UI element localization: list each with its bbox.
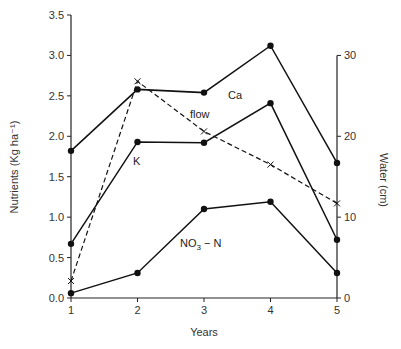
y2-axis-title: Water (cm) bbox=[378, 153, 390, 207]
series-label-k: K bbox=[133, 155, 141, 167]
data-point bbox=[267, 100, 273, 106]
x-tick-label: 1 bbox=[68, 304, 74, 316]
data-point-cross bbox=[135, 78, 141, 84]
x-tick-label: 4 bbox=[267, 304, 273, 316]
y-tick-label: 0.0 bbox=[49, 292, 64, 304]
y-tick-label: 2.0 bbox=[49, 130, 64, 142]
y2-tick-label: 30 bbox=[344, 49, 356, 61]
data-point-cross bbox=[268, 162, 274, 168]
x-tick-label: 5 bbox=[334, 304, 340, 316]
data-point bbox=[201, 89, 207, 95]
x-tick-label: 2 bbox=[134, 304, 140, 316]
series-label-ca: Ca bbox=[228, 89, 243, 101]
y2-tick-label: 0 bbox=[344, 292, 350, 304]
y-tick-label: 1.0 bbox=[49, 211, 64, 223]
y-tick-label: 0.5 bbox=[49, 252, 64, 264]
line-chart: 0.00.51.01.52.02.53.03.5010203012345 Yea… bbox=[0, 0, 401, 349]
series-label-no3: NO3 − N bbox=[180, 237, 221, 252]
y-tick-label: 3.5 bbox=[49, 9, 64, 21]
series-line-k bbox=[71, 103, 337, 244]
data-point bbox=[334, 270, 340, 276]
y-tick-label: 3.0 bbox=[49, 49, 64, 61]
data-point bbox=[68, 290, 74, 296]
y-tick-label: 1.5 bbox=[49, 171, 64, 183]
y-tick-label: 2.5 bbox=[49, 90, 64, 102]
data-point bbox=[201, 140, 207, 146]
y2-tick-label: 10 bbox=[344, 211, 356, 223]
data-point bbox=[134, 270, 140, 276]
data-point bbox=[267, 199, 273, 205]
y2-tick-label: 20 bbox=[344, 130, 356, 142]
data-point bbox=[334, 237, 340, 243]
series-lines bbox=[68, 43, 340, 297]
y-axis-title: Nutrients (Kg ha⁻¹) bbox=[8, 121, 20, 214]
data-point-cross bbox=[201, 128, 207, 134]
x-tick-label: 3 bbox=[201, 304, 207, 316]
data-point bbox=[201, 206, 207, 212]
axes: 0.00.51.01.52.02.53.03.5010203012345 bbox=[49, 9, 357, 316]
x-axis-title: Years bbox=[190, 326, 218, 338]
series-label-flow: flow bbox=[190, 108, 210, 120]
data-point bbox=[267, 43, 273, 49]
data-point bbox=[134, 139, 140, 145]
data-point bbox=[68, 241, 74, 247]
data-point bbox=[68, 148, 74, 154]
data-point bbox=[334, 160, 340, 166]
